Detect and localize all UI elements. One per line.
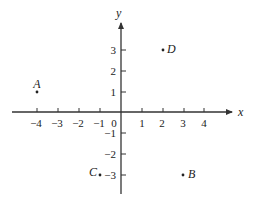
y-tick-label: 2 bbox=[111, 65, 117, 77]
point-b-label: B bbox=[188, 167, 196, 181]
x-axis-label: x bbox=[237, 105, 244, 119]
coordinate-plane: x y −4 −3 −2 −1 0 1 2 3 4 3 2 1 −1 − bbox=[0, 0, 257, 200]
x-tick-label: 3 bbox=[180, 117, 186, 129]
x-tick-label: −2 bbox=[72, 117, 84, 129]
point-a-dot bbox=[36, 91, 39, 94]
x-tick-label: 2 bbox=[159, 117, 165, 129]
point-d: D bbox=[162, 42, 176, 56]
point-d-dot bbox=[162, 49, 165, 52]
x-tick-label: 1 bbox=[139, 117, 145, 129]
point-b-dot bbox=[182, 174, 185, 177]
x-tick-label: −3 bbox=[51, 117, 63, 129]
point-c-label: C bbox=[89, 165, 98, 179]
point-c-dot bbox=[99, 174, 102, 177]
x-tick-label: −4 bbox=[30, 117, 42, 129]
x-tick-labels: −4 −3 −2 −1 0 1 2 3 4 bbox=[30, 117, 207, 129]
point-d-label: D bbox=[166, 42, 176, 56]
y-tick-label: −2 bbox=[104, 148, 116, 160]
x-tick-label: −1 bbox=[93, 117, 105, 129]
y-tick-label: 1 bbox=[111, 86, 117, 98]
point-c: C bbox=[89, 165, 101, 179]
y-tick-label: −3 bbox=[104, 169, 116, 181]
y-tick-label: −1 bbox=[104, 127, 116, 139]
y-axis-label: y bbox=[115, 6, 122, 20]
y-tick-label: 3 bbox=[111, 44, 117, 56]
point-a: A bbox=[32, 77, 41, 93]
point-b: B bbox=[182, 167, 196, 181]
point-a-label: A bbox=[32, 77, 41, 91]
x-tick-label: 4 bbox=[201, 117, 207, 129]
